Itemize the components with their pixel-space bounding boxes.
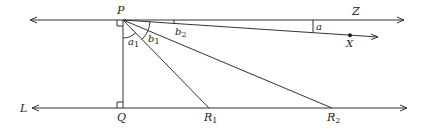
point-x — [348, 33, 352, 37]
line-z — [30, 17, 404, 23]
label-p: P — [116, 4, 125, 17]
label-q: Q — [117, 111, 126, 124]
label-r2: R2 — [326, 111, 340, 125]
geometry-diagram: P Q L Z X R1 R2 a1 b1 b2 a — [0, 0, 428, 129]
right-angle-mark-p — [117, 20, 123, 26]
line-l — [32, 105, 407, 111]
right-angle-mark-q — [117, 102, 123, 108]
ray-px — [123, 20, 378, 37]
label-angle-b2: b2 — [175, 26, 187, 39]
label-z: Z — [351, 5, 360, 18]
label-r1: R1 — [203, 111, 217, 125]
label-angle-a: a — [316, 21, 322, 32]
label-angle-a1: a1 — [128, 36, 139, 49]
label-l: L — [19, 102, 27, 115]
label-x: X — [345, 38, 354, 49]
